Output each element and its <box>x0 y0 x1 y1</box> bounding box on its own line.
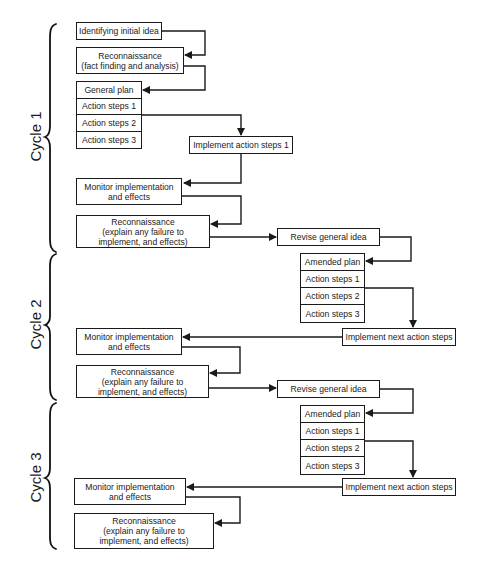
monitor-line-1: Monitor implementation <box>85 482 174 492</box>
implement-next-action-steps-box-2: Implement next action steps <box>342 328 456 346</box>
monitor-line-1: Monitor implementation <box>84 182 173 192</box>
amended-plan-stack-2: Amended plan Action steps 1 Action steps… <box>300 253 365 323</box>
monitor-implementation-box-1: Monitor implementation and effects <box>76 178 182 205</box>
recon-line-1: (explain any failure to <box>102 377 184 387</box>
arrow-amended-to-implement-3 <box>364 441 413 477</box>
reconnaissance-fact-finding-box: Reconnaissance (fact finding and analysi… <box>76 47 184 74</box>
brace-cycle-2 <box>45 254 56 400</box>
recon-line-1: (explain any failure to <box>103 526 185 536</box>
amended-plan-row: Amended plan <box>301 406 364 423</box>
implement-text: Implement next action steps <box>346 332 453 342</box>
recon-subtitle: (fact finding and analysis) <box>81 61 178 71</box>
action-steps-1-row: Action steps 1 <box>301 423 364 440</box>
general-plan-stack: General plan Action steps 1 Action steps… <box>76 81 142 149</box>
cycle-1-label: Cycle 1 <box>27 97 44 177</box>
brace-cycle-3 <box>45 403 56 549</box>
recon-title: Reconnaissance <box>111 367 175 377</box>
action-steps-3-row: Action steps 3 <box>301 457 364 474</box>
action-steps-2-row: Action steps 2 <box>301 288 364 305</box>
identifying-initial-idea-text: Identifying initial idea <box>79 26 159 36</box>
monitor-line-2: and effects <box>108 192 150 202</box>
monitor-line-1: Monitor implementation <box>84 332 173 342</box>
identifying-initial-idea-box: Identifying initial idea <box>76 22 162 40</box>
amended-plan-row: Amended plan <box>301 254 364 271</box>
arrow-plan-to-implement <box>142 115 241 135</box>
implement-text: Implement next action steps <box>346 482 453 492</box>
revise-general-idea-box-2: Revise general idea <box>277 380 380 398</box>
action-steps-1-row: Action steps 1 <box>77 99 141 116</box>
revise-text: Revise general idea <box>291 232 367 242</box>
monitor-implementation-box-3: Monitor implementation and effects <box>74 478 186 505</box>
arrow-amended-to-implement <box>364 288 413 327</box>
amended-plan-stack-3: Amended plan Action steps 1 Action steps… <box>300 405 365 475</box>
implement-next-action-steps-box-3: Implement next action steps <box>342 478 456 496</box>
revise-general-idea-box-1: Revise general idea <box>277 228 380 246</box>
monitor-line-2: and effects <box>108 342 150 352</box>
recon-line-2: implement, and effects) <box>98 237 187 247</box>
reconnaissance-failure-box-1: Reconnaissance (explain any failure to i… <box>76 215 210 248</box>
action-steps-2-row: Action steps 2 <box>301 440 364 457</box>
recon-line-2: implement, and effects) <box>99 536 188 546</box>
brace-cycle-1 <box>45 24 56 252</box>
recon-line-2: implement, and effects) <box>98 387 187 397</box>
recon-title: Reconnaissance <box>111 217 175 227</box>
implement-text: Implement action steps 1 <box>193 140 289 150</box>
action-steps-2-row: Action steps 2 <box>77 115 141 132</box>
recon-title: Reconnaissance <box>98 51 162 61</box>
action-steps-3-row: Action steps 3 <box>301 305 364 322</box>
action-steps-1-row: Action steps 1 <box>301 271 364 288</box>
monitor-implementation-box-2: Monitor implementation and effects <box>76 328 182 355</box>
cycle-2-label: Cycle 2 <box>27 285 44 365</box>
recon-title: Reconnaissance <box>112 516 176 526</box>
cycle-3-label: Cycle 3 <box>27 438 44 518</box>
general-plan-row: General plan <box>77 82 141 99</box>
monitor-line-2: and effects <box>109 492 151 502</box>
arrow-implement-to-monitor <box>184 154 241 183</box>
implement-action-steps-1-box: Implement action steps 1 <box>189 136 293 154</box>
recon-line-1: (explain any failure to <box>102 227 184 237</box>
action-steps-3-row: Action steps 3 <box>77 132 141 149</box>
reconnaissance-failure-box-2: Reconnaissance (explain any failure to i… <box>76 365 209 398</box>
reconnaissance-failure-box-3: Reconnaissance (explain any failure to i… <box>74 513 214 549</box>
revise-text: Revise general idea <box>291 384 367 394</box>
